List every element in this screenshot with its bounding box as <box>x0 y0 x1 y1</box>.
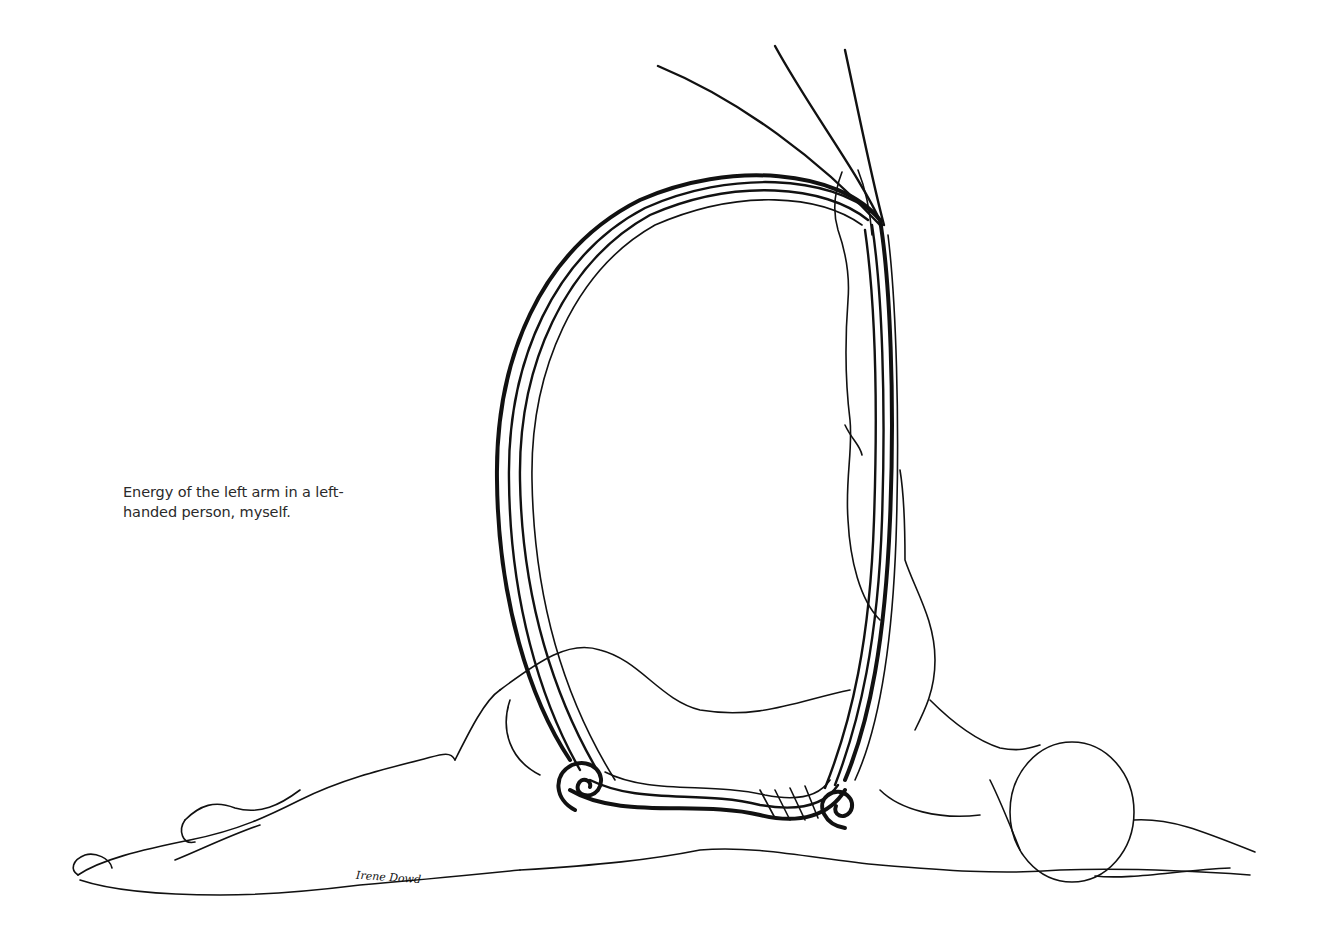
energy-arm-illustration <box>0 0 1319 937</box>
energy-loop <box>497 46 898 828</box>
reclining-body <box>73 647 1255 895</box>
